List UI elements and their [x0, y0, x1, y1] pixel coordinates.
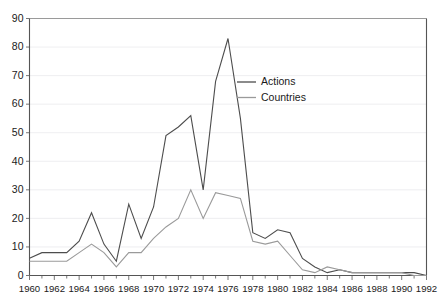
legend-label-actions: Actions: [261, 75, 295, 87]
x-axis-tick-labels: 1960196219641966196819701972197419761978…: [19, 283, 437, 294]
x-tick-label: 1970: [143, 283, 164, 294]
y-tick-label: 70: [12, 69, 24, 81]
x-tick-label: 1980: [267, 283, 288, 294]
x-tick-label: 1964: [68, 283, 90, 294]
x-tick-label: 1972: [168, 283, 189, 294]
y-tick-label: 20: [12, 212, 24, 224]
data-series: [30, 38, 427, 275]
y-tick-label: 0: [18, 269, 24, 281]
series-line-actions: [30, 38, 427, 275]
y-tick-label: 80: [12, 40, 24, 52]
y-axis-tick-labels: 0102030405060708090: [12, 12, 24, 281]
x-tick-label: 1960: [19, 283, 40, 294]
x-tick-label: 1968: [118, 283, 139, 294]
y-tick-label: 40: [12, 155, 24, 167]
y-tick-label: 90: [12, 12, 24, 24]
x-tick-label: 1990: [391, 283, 412, 294]
x-axis-tick-marks: [30, 276, 427, 281]
legend-label-countries: Countries: [261, 91, 306, 103]
x-tick-label: 1986: [341, 283, 362, 294]
chart-legend: ActionsCountries: [237, 75, 306, 103]
x-tick-label: 1976: [217, 283, 238, 294]
line-chart: 0102030405060708090 19601962196419661968…: [0, 0, 438, 301]
y-tick-label: 50: [12, 126, 24, 138]
y-tick-label: 30: [12, 183, 24, 195]
y-tick-label: 60: [12, 97, 24, 109]
x-tick-label: 1982: [292, 283, 313, 294]
x-tick-label: 1962: [44, 283, 65, 294]
x-tick-label: 1974: [193, 283, 215, 294]
gridlines: [30, 19, 427, 247]
x-tick-label: 1966: [93, 283, 114, 294]
x-tick-label: 1984: [317, 283, 339, 294]
x-tick-label: 1992: [416, 283, 437, 294]
y-tick-label: 10: [12, 240, 24, 252]
chart-canvas: 0102030405060708090 19601962196419661968…: [0, 0, 438, 301]
series-line-countries: [30, 190, 427, 276]
x-tick-label: 1988: [366, 283, 387, 294]
x-tick-label: 1978: [242, 283, 263, 294]
plot-frame: [30, 19, 427, 276]
